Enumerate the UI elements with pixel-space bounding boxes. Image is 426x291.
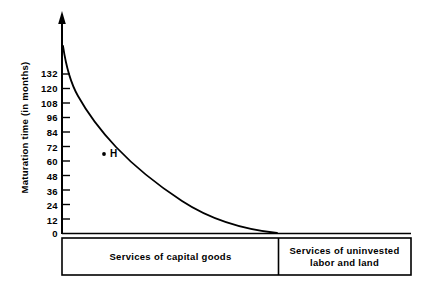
category-label-capital-goods: Services of capital goods: [62, 238, 279, 275]
y-axis-tick-marks: [63, 74, 70, 219]
category-label-right-line1: Services of uninvested: [289, 245, 399, 256]
maturation-time-curve: [63, 46, 277, 233]
maturation-time-chart: Maturation time (in months) 132 120 108 …: [0, 0, 426, 291]
category-label-uninvested-labor-and-land: Services of uninvested labor and land: [278, 238, 411, 275]
point-h-label: H: [110, 149, 117, 159]
category-label-right-line2: labor and land: [310, 257, 379, 268]
point-h-marker-dot: [102, 152, 106, 156]
